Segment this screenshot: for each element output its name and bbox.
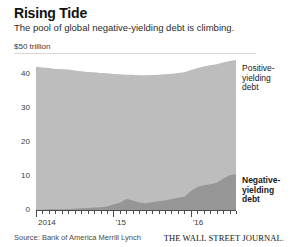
y-tick-label-20: 20 (4, 137, 30, 146)
x-tick-2016-02 (197, 211, 198, 214)
x-tick-2014-06 (68, 211, 69, 214)
x-tick-2014-03 (49, 211, 50, 214)
x-tick-2014-07 (75, 211, 76, 214)
x-tick-2014-12 (107, 211, 108, 214)
y-tick-label-40: 40 (4, 69, 30, 78)
source-note: Source: Bank of America Merrill Lynch (14, 233, 141, 242)
x-tick-2016-05 (217, 211, 218, 214)
x-tick-2015-12 (184, 211, 185, 214)
x-tick-2015-07 (152, 211, 153, 214)
x-tick-2015-10 (171, 211, 172, 214)
y-tick-label-30: 30 (4, 103, 30, 112)
x-axis-label-2014: 2014 (38, 218, 56, 227)
chart-subtitle: The pool of global negative-yielding deb… (14, 22, 234, 33)
x-tick-2015-11 (178, 211, 179, 214)
y-axis-unit-label: $50 trillion (14, 42, 50, 51)
x-tick-2015-04 (133, 211, 134, 214)
x-tick-2014-11 (101, 211, 102, 214)
callout-negative-yielding-debt: Negative- yielding debt (242, 176, 280, 205)
chart-figure: Rising Tide The pool of global negative-… (0, 0, 294, 247)
x-tick-2015-08 (159, 211, 160, 214)
x-tick-2016-07 (230, 211, 231, 214)
x-tick-2015-03 (126, 211, 127, 214)
x-axis-label-15: '15 (115, 218, 125, 227)
x-axis-line (36, 210, 236, 211)
x-tick-2016-03 (204, 211, 205, 214)
x-tick-2016-01 (191, 211, 192, 217)
x-tick-2015-05 (139, 211, 140, 214)
page-title: Rising Tide (14, 5, 87, 21)
x-tick-2014-08 (81, 211, 82, 214)
x-tick-2014-04 (55, 211, 56, 214)
y-tick-label-0: 0 (4, 205, 30, 214)
x-tick-2015-06 (146, 211, 147, 214)
x-tick-2014-09 (88, 211, 89, 214)
top-axis-rule (14, 53, 256, 54)
stacked-area-svg (36, 60, 236, 210)
x-tick-2016-08 (236, 211, 237, 214)
publisher-logo: THE WALL STREET JOURNAL. (164, 233, 284, 243)
x-tick-2015-02 (120, 211, 121, 214)
y-tick-label-10: 10 (4, 171, 30, 180)
x-tick-2014-10 (94, 211, 95, 214)
x-tick-2015-01 (113, 211, 114, 217)
plot-area (36, 60, 236, 210)
x-tick-2016-04 (210, 211, 211, 214)
x-tick-2015-09 (165, 211, 166, 214)
x-axis-label-16: '16 (193, 218, 203, 227)
x-tick-2016-06 (223, 211, 224, 214)
x-tick-2014-01 (36, 211, 37, 217)
x-tick-2014-02 (42, 211, 43, 214)
callout-positive-yielding-debt: Positive- yielding debt (242, 64, 275, 93)
x-tick-2014-05 (62, 211, 63, 214)
